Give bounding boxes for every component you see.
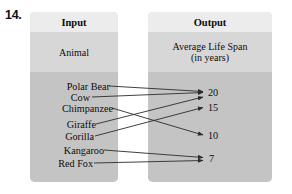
output-header-band: Output [148, 12, 272, 32]
input-item-polar-bear[interactable]: Polar Bear [0, 82, 110, 92]
output-subheader-label: Average Life Span (in years) [173, 41, 248, 63]
output-item-15[interactable]: 15 [208, 103, 218, 113]
output-item-20[interactable]: 20 [208, 88, 218, 98]
output-header-label: Output [194, 17, 227, 28]
input-item-giraffe[interactable]: Giraffe [0, 120, 96, 130]
output-item-10[interactable]: 10 [208, 131, 218, 141]
input-header-band: Input [30, 12, 118, 32]
input-item-chimpanzee[interactable]: Chimpanzee [0, 104, 113, 114]
output-subheader-line1: Average Life Span [173, 41, 248, 52]
input-item-kangaroo[interactable]: Kangaroo [0, 146, 104, 156]
input-item-gorilla[interactable]: Gorilla [0, 132, 94, 142]
input-subheader-band: Animal [30, 32, 118, 72]
output-subheader-band: Average Life Span (in years) [148, 32, 272, 72]
worksheet-figure: 14. Input Animal Output Average Life Spa… [0, 0, 292, 194]
input-item-cow[interactable]: Cow [0, 93, 90, 103]
input-header-label: Input [61, 17, 86, 28]
question-number: 14. [5, 8, 21, 22]
output-item-7[interactable]: 7 [209, 154, 214, 164]
input-subheader-label: Animal [59, 47, 89, 58]
output-subheader-line2: (in years) [191, 52, 229, 63]
input-item-red-fox[interactable]: Red Fox [0, 159, 93, 169]
